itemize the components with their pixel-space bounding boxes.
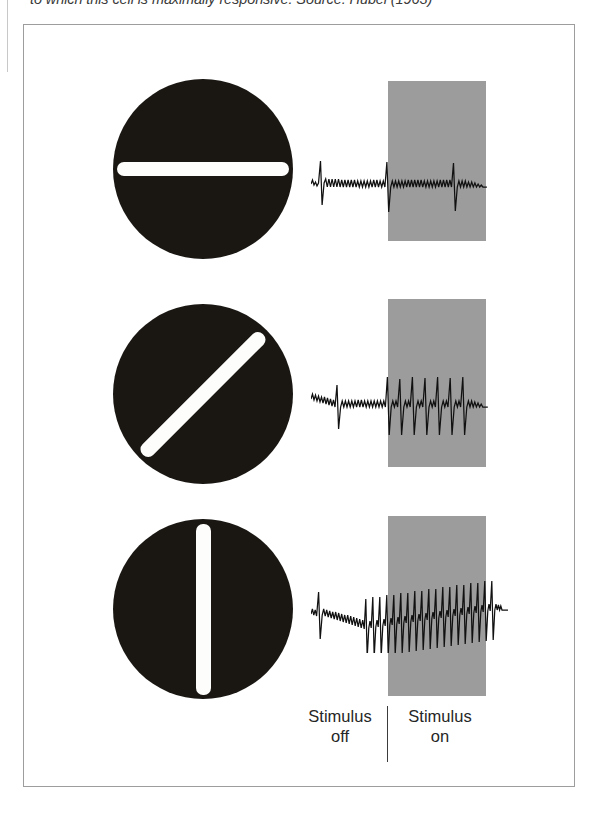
stimulus-bar-vertical bbox=[196, 524, 211, 695]
stimulus-on-label: Stimulus on bbox=[396, 706, 484, 746]
page-left-rule bbox=[7, 0, 8, 72]
spike-trace-oblique bbox=[311, 363, 521, 435]
stimulus-circle-oblique bbox=[113, 304, 293, 484]
spike-trace-vertical bbox=[311, 575, 523, 653]
figure-caption-strip: to which this cell is maximally responsi… bbox=[0, 0, 611, 16]
figure-frame: Stimulus off Stimulus on bbox=[23, 24, 575, 787]
spike-trace-horizontal bbox=[311, 151, 521, 217]
stimulus-bar-oblique bbox=[138, 329, 269, 460]
figure-caption-text: to which this cell is maximally responsi… bbox=[30, 0, 432, 7]
stimulus-circle-vertical bbox=[113, 519, 293, 699]
stimulus-circle-horizontal bbox=[113, 79, 293, 259]
stimulus-off-label: Stimulus off bbox=[296, 706, 384, 746]
legend-divider bbox=[387, 706, 388, 762]
stimulus-bar-horizontal bbox=[117, 162, 289, 176]
